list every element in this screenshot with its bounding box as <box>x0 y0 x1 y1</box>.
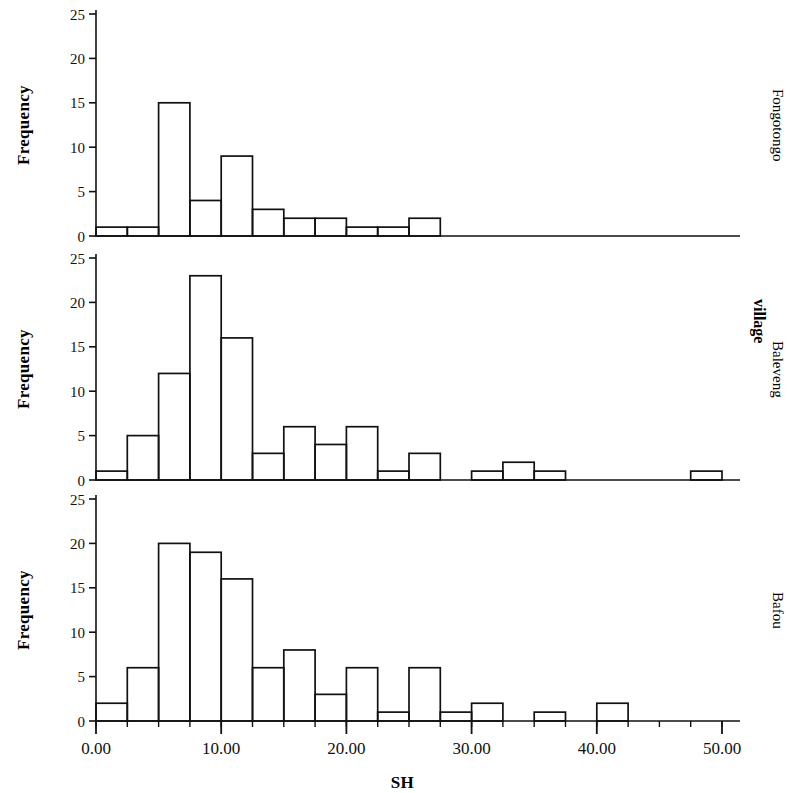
histogram-bar <box>315 444 346 480</box>
histogram-bar <box>221 579 252 721</box>
y-axis-tick-label: 5 <box>78 428 86 444</box>
histogram-bar <box>221 338 252 480</box>
histogram-bar <box>691 471 722 480</box>
y-axis-tick-label: 10 <box>70 140 85 156</box>
panel-plot-area: 0510152025 <box>0 489 805 729</box>
y-axis-tick-label: 25 <box>70 7 85 23</box>
histogram-bar <box>221 156 252 236</box>
x-axis-tick-label: 20.00 <box>327 739 365 758</box>
histogram-bar <box>346 227 377 236</box>
histogram-bar <box>284 650 315 721</box>
y-axis-tick-label: 0 <box>78 229 86 245</box>
histogram-bar <box>190 276 221 480</box>
histogram-bar <box>503 462 534 480</box>
histogram-bar <box>253 668 284 721</box>
histogram-bar <box>253 453 284 480</box>
histogram-bar <box>96 703 127 721</box>
strip-label-fongotongo: Fongotongo <box>769 89 786 162</box>
histogram-bar <box>190 200 221 236</box>
panel-baleveng: 0510152025 <box>0 248 805 488</box>
y-axis-tick-label: 15 <box>70 339 85 355</box>
y-axis-tick-label: 20 <box>70 51 85 67</box>
x-axis-tick-label: 50.00 <box>703 739 741 758</box>
y-axis-tick-label: 5 <box>78 669 86 685</box>
y-axis-tick-label: 10 <box>70 384 85 400</box>
histogram-bar <box>472 703 503 721</box>
y-axis-tick-label: 25 <box>70 492 85 508</box>
strip-label-baleveng: Baleveng <box>769 341 786 398</box>
strip-label-bafou: Bafou <box>769 592 786 629</box>
x-axis-tick-label: 40.00 <box>578 739 616 758</box>
panel-bafou: 0510152025 <box>0 489 805 729</box>
y-axis-tick-label: 10 <box>70 625 85 641</box>
histogram-bar <box>127 668 158 721</box>
histogram-bar <box>96 471 127 480</box>
y-axis-tick-label: 5 <box>78 184 86 200</box>
histogram-bar <box>315 694 346 721</box>
histogram-bar <box>346 427 377 480</box>
histogram-bar <box>159 543 190 721</box>
histogram-bar <box>284 427 315 480</box>
histogram-bar <box>127 436 158 480</box>
y-axis-tick-label: 20 <box>70 536 85 552</box>
y-axis-tick-label: 20 <box>70 295 85 311</box>
histogram-bar <box>440 712 471 721</box>
x-axis: 0.0010.0020.0030.0040.0050.00 <box>0 721 805 769</box>
histogram-bar <box>127 227 158 236</box>
histogram-bar <box>253 209 284 236</box>
histogram-bar <box>378 471 409 480</box>
x-axis-area: 0.0010.0020.0030.0040.0050.00 <box>0 721 805 769</box>
y-axis-tick-label: 15 <box>70 580 85 596</box>
histogram-bar <box>597 703 628 721</box>
x-axis-tick-label: 0.00 <box>81 739 111 758</box>
histogram-bar <box>409 218 440 236</box>
panel-plot-area: 0510152025 <box>0 4 805 244</box>
histogram-figure: Frequency Frequency Frequency 0510152025… <box>0 0 805 793</box>
histogram-bar <box>190 552 221 721</box>
histogram-bar <box>159 103 190 236</box>
panel-fongotongo: 0510152025 <box>0 4 805 244</box>
histogram-bar <box>284 218 315 236</box>
histogram-bar <box>378 712 409 721</box>
y-axis-tick-label: 15 <box>70 95 85 111</box>
y-axis-tick-label: 0 <box>78 473 86 489</box>
histogram-bar <box>534 471 565 480</box>
histogram-bar <box>534 712 565 721</box>
x-axis-title: SH <box>0 773 805 793</box>
x-axis-tick-label: 30.00 <box>452 739 490 758</box>
histogram-bar <box>346 668 377 721</box>
histogram-bar <box>96 227 127 236</box>
histogram-bar <box>378 227 409 236</box>
x-axis-tick-label: 10.00 <box>202 739 240 758</box>
group-label-village: village <box>750 299 768 343</box>
histogram-bar <box>409 453 440 480</box>
histogram-bar <box>409 668 440 721</box>
panel-plot-area: 0510152025 <box>0 248 805 488</box>
y-axis-tick-label: 25 <box>70 251 85 267</box>
histogram-bar <box>472 471 503 480</box>
histogram-bar <box>159 373 190 480</box>
histogram-bar <box>315 218 346 236</box>
